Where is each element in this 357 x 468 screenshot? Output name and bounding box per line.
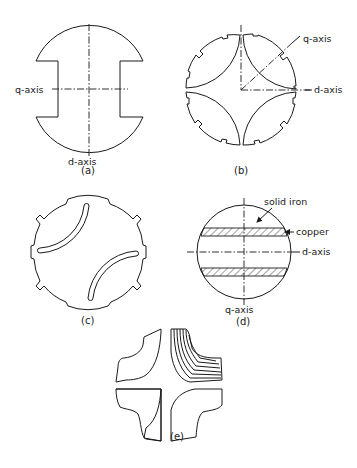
- slot-c-upper-left: [38, 204, 90, 254]
- slot-c-lower-right: [88, 251, 139, 301]
- panel-b: q-axis d-axis (b): [186, 25, 343, 176]
- panel-c: (c): [31, 195, 146, 326]
- panel-e: (e): [116, 329, 222, 442]
- rotor-b-segment-br: [243, 92, 296, 145]
- lamination-segment-bl-outline: [116, 389, 161, 441]
- q-axis-leader-b: [292, 36, 300, 43]
- copper-label: copper: [296, 226, 329, 237]
- d-axis-label-d: d-axis: [302, 246, 331, 257]
- q-axis-label-b: q-axis: [303, 33, 332, 44]
- caption-d: (d): [236, 316, 250, 327]
- q-axis-label-d: q-axis: [225, 304, 254, 315]
- caption-b: (b): [234, 165, 248, 176]
- caption-c: (c): [81, 315, 94, 326]
- lamination-segment-tr: [171, 329, 222, 382]
- rotor-b-segment-tl: [186, 35, 240, 88]
- panel-d: d-axis solid iron copper q-axis (d): [187, 196, 331, 327]
- panel-a: q-axis d-axis (a): [15, 24, 143, 176]
- diagram-canvas: q-axis d-axis (a) q-axis d-axis (b) (c): [0, 0, 357, 468]
- lamination-segment-tl: [116, 329, 161, 382]
- caption-e: (e): [170, 431, 184, 442]
- caption-a: (a): [81, 165, 95, 176]
- q-axis-line-b: [241, 43, 292, 90]
- solid-iron-label: solid iron: [264, 196, 307, 207]
- rotor-b-segment-bl: [186, 92, 240, 145]
- d-axis-label-b: d-axis: [314, 84, 343, 95]
- q-axis-label-a: q-axis: [15, 84, 44, 95]
